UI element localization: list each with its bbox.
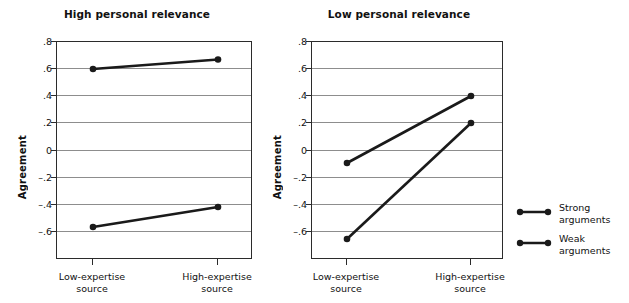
y-tick-label-high-5: –.2 <box>26 173 52 183</box>
x-tick-label-high-1-line2: source <box>162 283 272 295</box>
legend-label-strong-line2: arguments <box>559 214 629 226</box>
y-tick-label-high-6: –.4 <box>26 200 52 210</box>
legend-label-weak-line2: arguments <box>559 245 629 257</box>
x-tick-label-high-0: Low-expertise source <box>37 271 147 294</box>
y-tick-label-high-2: .4 <box>26 91 52 101</box>
legend-item-weak-arguments: Weak arguments <box>516 235 626 261</box>
y-tick-label-low-6: –.4 <box>281 200 307 210</box>
panel-title-high: High personal relevance <box>0 8 277 20</box>
plot-area-low <box>311 41 503 259</box>
y-tick-label-high-7: –.6 <box>26 227 52 237</box>
panel-high-personal-relevance: High personal relevance Agreement .8 .6 … <box>0 0 280 303</box>
x-tick-mark-low-0 <box>346 259 347 265</box>
legend-label-strong-arguments: Strong arguments <box>559 202 629 226</box>
y-tick-label-low-0: .8 <box>281 37 307 47</box>
y-tick-label-low-5: –.2 <box>281 173 307 183</box>
legend-line-marker-strong-icon <box>516 208 552 216</box>
figure-two-panel-line-chart: High personal relevance Agreement .8 .6 … <box>0 0 629 303</box>
x-tick-label-high-0-line2: source <box>37 283 147 295</box>
y-tick-label-low-4: 0 <box>281 146 307 156</box>
legend-label-weak-line1: Weak <box>559 233 629 245</box>
y-tick-label-high-1: .6 <box>26 64 52 74</box>
x-tick-mark-low-1 <box>470 259 471 265</box>
x-tick-label-low-1-line2: source <box>415 283 525 295</box>
x-tick-label-low-1-line1: High-expertise <box>415 271 525 283</box>
x-tick-label-high-1: High-expertise source <box>162 271 272 294</box>
panel-low-personal-relevance: Low personal relevance Agreement .8 .6 .… <box>262 0 522 303</box>
y-tick-label-high-0: .8 <box>26 37 52 47</box>
legend-line-marker-weak-icon <box>516 239 552 247</box>
legend: Strong arguments Weak arguments <box>516 204 626 266</box>
series-low-weak-arguments <box>344 120 475 243</box>
series-lines-high <box>57 42 253 260</box>
series-low-strong-arguments <box>344 93 475 167</box>
y-axis-label-high: Agreement <box>17 135 28 199</box>
y-tick-label-low-1: .6 <box>281 64 307 74</box>
series-high-strong-arguments <box>90 56 222 72</box>
x-tick-label-low-0: Low-expertise source <box>291 271 401 294</box>
series-lines-low <box>312 42 504 260</box>
panel-title-low: Low personal relevance <box>269 8 529 20</box>
legend-label-strong-line1: Strong <box>559 202 629 214</box>
x-tick-mark-high-0 <box>92 259 93 265</box>
y-axis-label-low: Agreement <box>272 135 283 199</box>
legend-item-strong-arguments: Strong arguments <box>516 204 626 230</box>
x-tick-label-low-0-line2: source <box>291 283 401 295</box>
y-tick-label-low-7: –.6 <box>281 227 307 237</box>
y-tick-label-low-2: .4 <box>281 91 307 101</box>
x-tick-label-low-1: High-expertise source <box>415 271 525 294</box>
x-tick-label-high-0-line1: Low-expertise <box>37 271 147 283</box>
x-tick-label-low-0-line1: Low-expertise <box>291 271 401 283</box>
x-tick-mark-high-1 <box>217 259 218 265</box>
y-tick-label-high-3: .2 <box>26 118 52 128</box>
series-high-weak-arguments <box>90 204 222 231</box>
plot-area-high <box>56 41 252 259</box>
x-tick-label-high-1-line1: High-expertise <box>162 271 272 283</box>
legend-label-weak-arguments: Weak arguments <box>559 233 629 257</box>
y-tick-label-low-3: .2 <box>281 118 307 128</box>
y-tick-label-high-4: 0 <box>26 146 52 156</box>
